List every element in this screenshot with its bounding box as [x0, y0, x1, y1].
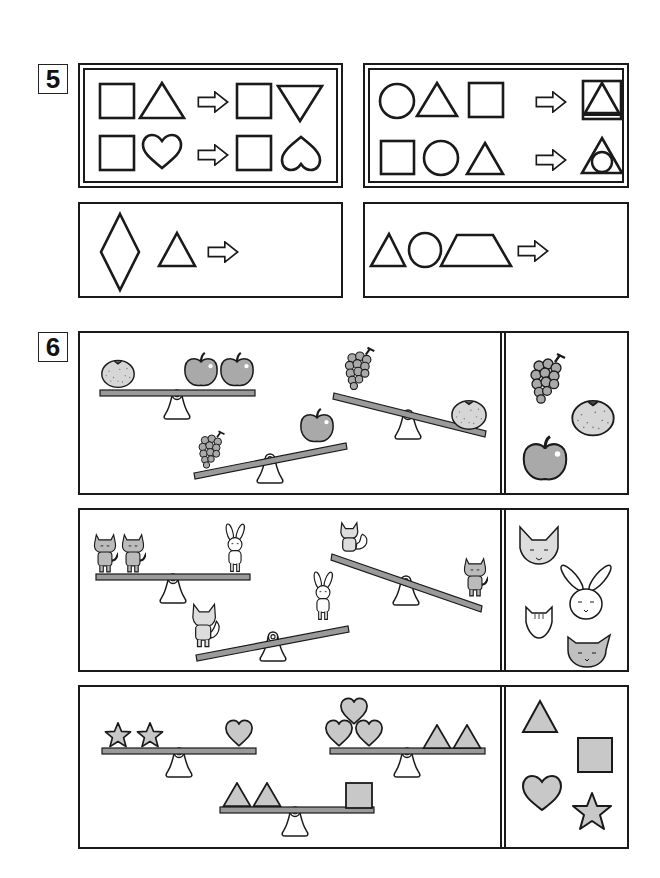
mouse-face-icon[interactable]	[526, 607, 552, 638]
triangle-icon	[140, 83, 184, 118]
circle-icon	[409, 233, 441, 267]
cat-face-icon[interactable]	[568, 635, 610, 667]
star-icon	[105, 723, 130, 747]
shape-choices	[523, 701, 612, 829]
apple-icon	[221, 353, 253, 386]
cat-icon	[94, 535, 119, 572]
square-icon	[469, 83, 503, 117]
triangle-icon	[467, 143, 503, 174]
problem-left[interactable]	[78, 202, 343, 298]
square-icon	[100, 136, 134, 170]
star-icon	[137, 723, 162, 747]
triangle-icon	[371, 234, 405, 266]
apple-icon	[301, 409, 333, 442]
triangle-icon	[417, 83, 457, 116]
seesaw-2	[193, 571, 349, 661]
seesaw-2	[326, 698, 485, 777]
triangle-icon	[224, 783, 251, 806]
star-icon[interactable]	[573, 793, 611, 829]
fruit-choices	[524, 354, 614, 479]
problem-right[interactable]	[363, 202, 629, 298]
apple-icon	[185, 353, 217, 386]
example-left-shapes	[80, 65, 345, 190]
problem-left-shapes	[80, 204, 345, 300]
circle-icon	[380, 84, 414, 118]
rabbit-face-icon[interactable]	[558, 563, 614, 619]
example-left	[78, 63, 343, 188]
orange-icon	[452, 401, 486, 430]
triangle-icon	[424, 725, 451, 748]
squirrel-icon	[341, 523, 367, 551]
heart-icon	[143, 135, 181, 168]
diamond-icon	[101, 214, 139, 290]
circle-icon	[424, 141, 458, 175]
arrow-right-icon	[536, 92, 565, 112]
heart-icon	[326, 720, 352, 745]
shapes-seesaws	[80, 687, 631, 851]
square-icon	[346, 783, 372, 808]
fox-face-icon[interactable]	[520, 527, 558, 564]
square-icon[interactable]	[578, 738, 612, 772]
fox-icon	[193, 604, 219, 646]
seesaw-3	[331, 523, 490, 612]
square-icon	[237, 84, 271, 118]
heart-icon	[356, 720, 382, 745]
orange-icon[interactable]	[572, 401, 613, 436]
problem-right-shapes	[365, 204, 631, 300]
seesaw-3	[220, 783, 374, 836]
triangle-in-square-icon	[583, 81, 621, 119]
rabbit-icon	[313, 571, 334, 619]
example-right	[363, 63, 629, 188]
triangle-icon	[159, 233, 195, 266]
animals-seesaws	[80, 510, 631, 674]
rabbit-icon	[225, 523, 246, 571]
inverted-heart-icon	[282, 137, 320, 170]
square-icon	[381, 141, 414, 174]
question-number-6: 6	[38, 332, 68, 362]
triangle-icon	[454, 725, 481, 748]
square-icon	[100, 84, 134, 118]
arrow-right-icon	[536, 150, 565, 170]
trapezoid-icon	[441, 235, 511, 266]
seesaw-2	[194, 409, 347, 483]
inverted-triangle-icon	[278, 86, 322, 121]
cat-icon	[464, 559, 489, 596]
triangle-icon[interactable]	[523, 701, 557, 732]
panel-animals	[78, 508, 629, 672]
circle-in-triangle-icon	[582, 138, 622, 173]
seesaw-1	[94, 523, 250, 603]
panel-shapes	[78, 685, 629, 849]
seesaw-1	[100, 353, 255, 419]
arrow-right-icon	[208, 242, 237, 262]
orange-icon	[102, 360, 134, 387]
seesaw-3	[333, 348, 486, 439]
panel-fruits	[78, 331, 629, 495]
question-number-5: 5	[38, 64, 68, 94]
arrow-right-icon	[198, 145, 227, 165]
arrow-right-icon	[198, 92, 227, 112]
seesaw-1	[102, 720, 256, 777]
fruits-seesaws	[80, 333, 631, 497]
arrow-right-icon	[518, 241, 547, 261]
heart-icon[interactable]	[523, 776, 561, 810]
heart-icon	[226, 720, 252, 745]
apple-icon[interactable]	[524, 437, 567, 480]
triangle-icon	[254, 783, 281, 806]
example-right-shapes	[365, 65, 631, 190]
grapes-icon	[345, 348, 374, 390]
cat-icon	[122, 535, 147, 572]
grapes-icon[interactable]	[531, 354, 565, 403]
square-icon	[237, 136, 271, 170]
animal-choices	[520, 527, 614, 667]
grapes-icon	[199, 431, 225, 468]
